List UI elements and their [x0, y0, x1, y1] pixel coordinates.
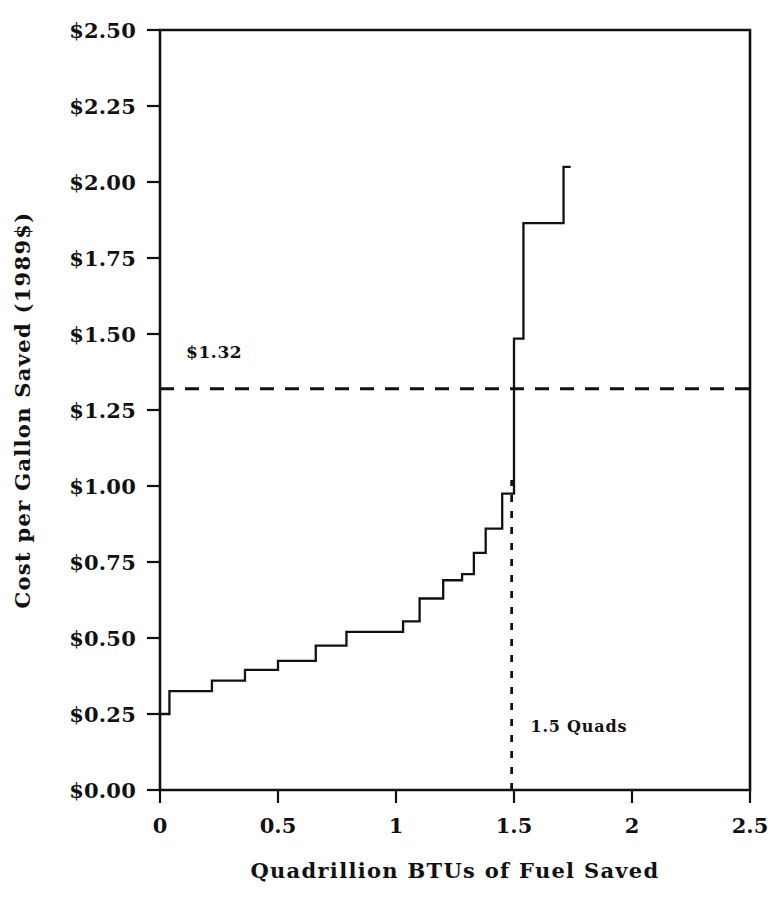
y-axis-title: Cost per Gallon Saved (1989$)	[10, 211, 35, 608]
y-axis-tick-label: $1.25	[69, 398, 136, 423]
y-axis-tick-label: $2.25	[69, 94, 136, 119]
y-axis-tick-label: $2.50	[69, 18, 136, 43]
x-axis-tick-label: 0.5	[260, 813, 297, 838]
x-axis-tick-label: 1.5	[496, 813, 533, 838]
quads-marker-label: 1.5 Quads	[531, 717, 628, 736]
y-axis-tick-label: $0.00	[69, 778, 136, 803]
chart-figure: $0.00$0.25$0.50$0.75$1.00$1.25$1.50$1.75…	[0, 0, 774, 905]
x-axis-tick-label: 0	[153, 813, 168, 838]
supply-step-curve	[160, 167, 571, 714]
y-axis-tick-label: $1.50	[69, 322, 136, 347]
y-axis-tick-label: $0.25	[69, 702, 136, 727]
x-axis-ticks	[160, 790, 750, 803]
y-axis-tick-label: $0.50	[69, 626, 136, 651]
threshold-price-label: $1.32	[186, 342, 242, 362]
x-axis-tick-label: 2	[625, 813, 640, 838]
x-axis-tick-label: 2.5	[732, 813, 769, 838]
x-axis-tick-labels: 00.511.522.5	[153, 813, 769, 838]
y-axis-tick-label: $0.75	[69, 550, 136, 575]
y-axis-ticks	[147, 30, 160, 790]
y-axis-tick-labels: $0.00$0.25$0.50$0.75$1.00$1.25$1.50$1.75…	[69, 18, 136, 803]
y-axis-tick-label: $2.00	[69, 170, 136, 195]
plot-frame	[160, 30, 750, 790]
axis-box	[160, 30, 750, 790]
chart-canvas: $0.00$0.25$0.50$0.75$1.00$1.25$1.50$1.75…	[0, 0, 774, 905]
y-axis-tick-label: $1.00	[69, 474, 136, 499]
x-axis-tick-label: 1	[389, 813, 404, 838]
x-axis-title: Quadrillion BTUs of Fuel Saved	[250, 858, 659, 883]
y-axis-tick-label: $1.75	[69, 246, 136, 271]
